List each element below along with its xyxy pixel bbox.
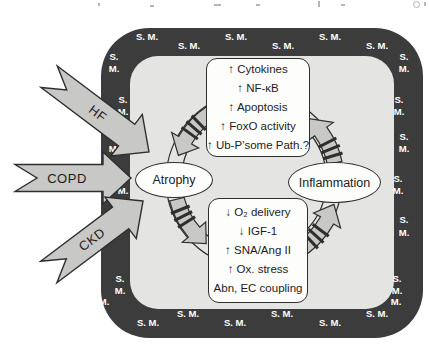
box-line: ↑ NF-κB [237,79,279,98]
box-line: ↑ Cytokines [228,60,287,79]
sm-label-top: S. M. [225,31,247,42]
sm-label-right: M. [399,227,410,238]
sm-label-left: S. [119,94,128,105]
sm-label-corner: M. [391,296,402,307]
box-line: ↑ Ox. stress [228,260,289,279]
inflammation-label: Inflammation [299,176,371,190]
box-line: ↑ SNA/Ang II [225,241,291,260]
sm-label-top: S. M. [366,40,388,51]
sm-label-right: S. [400,131,409,142]
sm-label-left: M. [109,63,120,74]
atrophy-mediators-box: ↓ O₂ delivery ↓ IGF-1 ↑ SNA/Ang II ↑ Ox.… [208,198,308,303]
sm-label-left: S. [116,273,125,284]
box-line: ↑ Apoptosis [229,98,288,117]
sm-label-bottom: S. M. [137,317,159,328]
sm-label-right: M. [399,63,410,74]
inflammation-node: Inflammation [288,162,381,203]
sm-label-top: S. M. [178,40,200,51]
box-line: Abn, EC coupling [214,279,303,298]
atrophy-node: Atrophy [135,162,213,198]
box-line: ↑ FoxO activity [220,117,295,136]
sm-label-bottom: S. M. [366,308,388,319]
sm-label-right: S. [395,94,404,105]
figure-skeletal-muscle-cycle: S. M.S. M.S. M.S. M.S. M.S. M.S. M.S. M.… [0,0,429,350]
sm-label-left: M. [115,285,126,296]
sm-label-bottom: S. M. [177,308,199,319]
sm-label-right: S. [400,214,409,225]
inflammatory-mediators-box: ↑ Cytokines ↑ NF-κB ↑ Apoptosis ↑ FoxO a… [206,58,310,157]
sm-label-top: S. M. [136,31,158,42]
input-arrow-copd-label: COPD [47,171,87,186]
sm-label-right: S. [394,173,403,184]
sm-label-right: M. [394,106,405,117]
sm-label-corner: M. [99,296,110,307]
box-line: ↓ IGF-1 [239,222,277,241]
sm-label-right: M. [399,143,410,154]
box-line: ↓ O₂ delivery [225,203,290,222]
box-line: ↑ Ub-P’some Path.? [207,136,309,155]
sm-label-bottom: S. M. [319,317,341,328]
sm-label-bottom: S. M. [271,308,293,319]
sm-label-bottom: S. M. [224,317,246,328]
sm-label-right: S. [400,51,409,62]
sm-label-top: S. M. [272,40,294,51]
sm-label-left: S. [110,51,119,62]
sm-label-right: M. [392,285,403,296]
atrophy-label: Atrophy [152,173,195,187]
sm-label-right: M. [393,185,404,196]
sm-label-right: S. [393,273,402,284]
sm-label-top: S. M. [319,31,341,42]
